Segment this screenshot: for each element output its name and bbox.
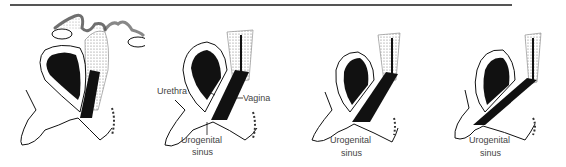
urogenital-sinus-label-line1: Urogenital xyxy=(181,135,222,145)
urogenital-sinus-label-line2: sinus xyxy=(341,148,362,158)
stage-4-panel: Urogenital sinus xyxy=(425,0,566,167)
urethra-label: Urethra xyxy=(157,86,187,96)
stage-1-panel xyxy=(0,0,145,167)
stage-2-panel: Urethra Vagina Urogenital sinus xyxy=(145,0,290,167)
vagina-label: Vagina xyxy=(243,93,270,103)
urogenital-sinus-label-line1: Urogenital xyxy=(469,135,510,145)
stage-1-drawing xyxy=(0,0,145,167)
stage-3-panel: Urogenital sinus xyxy=(290,0,425,167)
urogenital-sinus-label-line2: sinus xyxy=(192,147,213,157)
urogenital-sinus-label-line2: sinus xyxy=(480,148,501,158)
urogenital-sinus-label-line1: Urogenital xyxy=(330,135,371,145)
